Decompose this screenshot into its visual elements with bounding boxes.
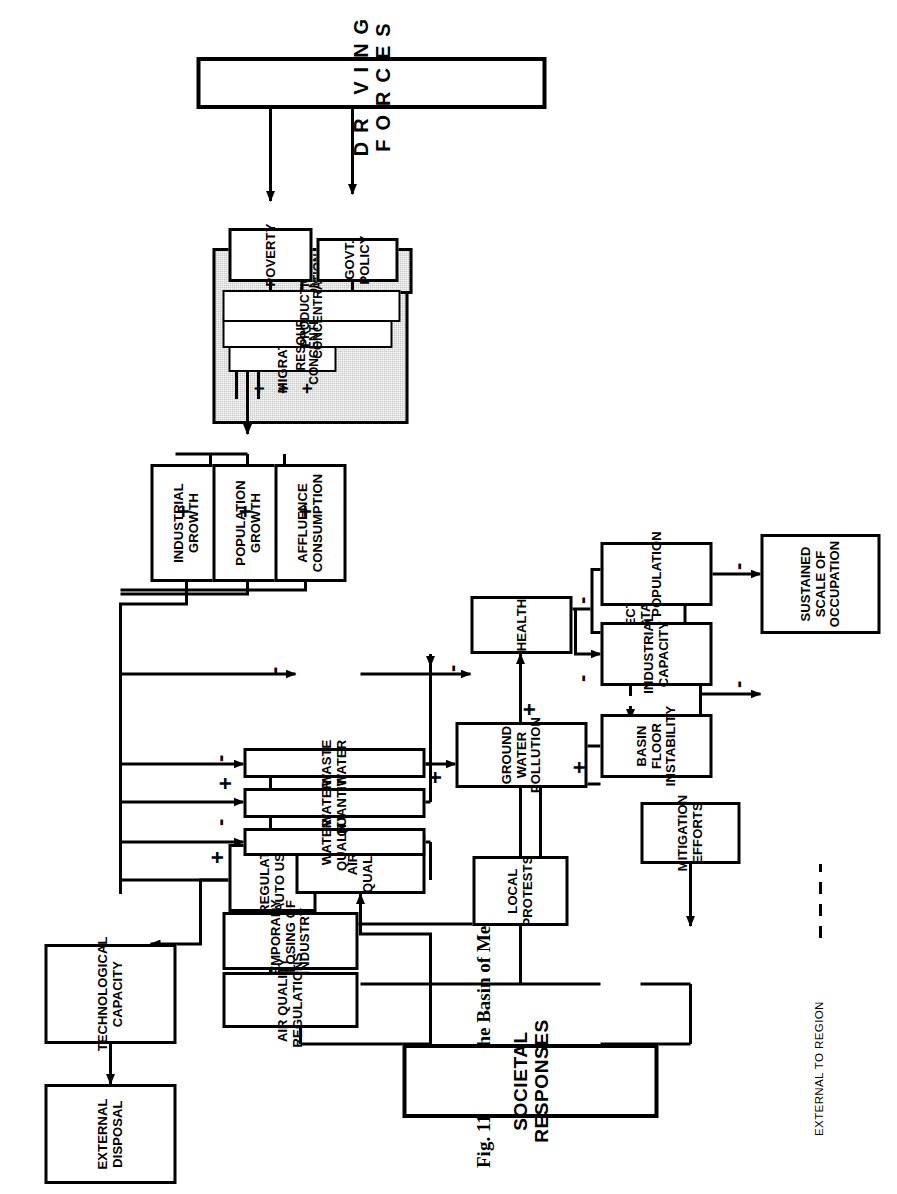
node-industrial-growth[interactable]: INDUSTRIAL GROWTH bbox=[150, 464, 222, 582]
sign-water-quality-plus: + bbox=[214, 777, 236, 790]
node-mitigation-efforts[interactable]: MITIGATION EFFORTS bbox=[640, 802, 740, 864]
sign-population: - bbox=[570, 597, 592, 604]
sign-water-quantity: - bbox=[208, 819, 230, 826]
node-poverty[interactable]: POVERTY bbox=[228, 228, 312, 282]
node-industrial-capacity[interactable]: INDUSTRIAL CAPACITY bbox=[600, 622, 712, 686]
sign-sustained-from-population: - bbox=[726, 563, 748, 570]
node-production-concentration[interactable]: PRODUCTION CONCENTRATION bbox=[222, 290, 400, 322]
sign-ground-water-top: + bbox=[424, 771, 446, 784]
sign-population-growth: + bbox=[234, 505, 256, 518]
sign-industrial-growth: + bbox=[172, 505, 194, 518]
node-external-disposal[interactable]: EXTERNAL DISPOSAL bbox=[44, 1084, 176, 1184]
node-population[interactable]: POPULATION bbox=[600, 542, 712, 606]
sign-industrial-capacity: - bbox=[570, 675, 592, 682]
node-water-quantity[interactable]: WATER QUANTITY bbox=[243, 788, 425, 818]
node-waste-water[interactable]: WASTE WATER bbox=[243, 748, 425, 778]
diagram-canvas: TECHNOLOGICAL CAPACITY EXTERNAL DISPOSAL… bbox=[0, 0, 897, 1194]
sign-affluence-consumption: + bbox=[294, 505, 316, 518]
sign-sustained-from-basin: - bbox=[726, 681, 748, 688]
node-health[interactable]: HEALTH bbox=[470, 596, 572, 654]
node-govt-policy[interactable]: GOVT. POLICY bbox=[316, 238, 398, 282]
rotated-figure-wrapper: TECHNOLOGICAL CAPACITY EXTERNAL DISPOSAL… bbox=[0, 0, 897, 1194]
node-basin-floor-instability[interactable]: BASIN FLOOR INSTABILITY bbox=[600, 714, 712, 778]
node-driving-forces[interactable]: DRIVING FORCES bbox=[196, 57, 546, 109]
node-sustained-scale-of-occupation[interactable]: SUSTAINED SCALE OF OCCUPATION bbox=[760, 534, 880, 634]
node-local-protests[interactable]: LOCAL PROTESTS bbox=[472, 856, 568, 926]
node-population-growth[interactable]: POPULATION GROWTH bbox=[212, 464, 284, 582]
sign-waste-water: + bbox=[206, 851, 228, 864]
figure-page: TECHNOLOGICAL CAPACITY EXTERNAL DISPOSAL… bbox=[0, 0, 897, 1194]
node-ground-water-pollution[interactable]: GROUND WATER POLLUTION bbox=[455, 722, 587, 788]
sign-migration: + bbox=[248, 383, 267, 394]
node-technological-capacity[interactable]: TECHNOLOGICAL CAPACITY bbox=[44, 944, 176, 1044]
sign-air-quality: - bbox=[262, 667, 284, 674]
sign-water-quality-minus: - bbox=[208, 755, 230, 762]
sign-health: - bbox=[440, 665, 462, 672]
sign-resources-concentration: + bbox=[272, 383, 291, 394]
node-air-quality-regulations[interactable]: AIR QUALITY REGULATIONS bbox=[222, 972, 358, 1028]
node-affluence-consumption[interactable]: AFFLUENCE CONSUMPTION bbox=[274, 464, 346, 582]
sign-basin-floor-instability: + bbox=[568, 761, 590, 774]
sign-ground-water-side: + bbox=[518, 703, 540, 716]
node-societal-responses[interactable]: SOCIETAL RESPONSES bbox=[402, 1044, 658, 1118]
sign-production-concentration: + bbox=[296, 383, 315, 394]
